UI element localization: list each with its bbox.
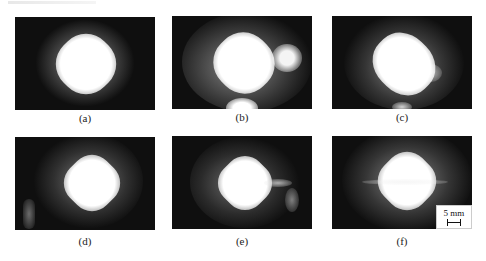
panel-a-caption: (a) [15,112,155,124]
panel-b-caption: (b) [172,111,312,123]
scale-bar-label: 5 mm [437,208,471,218]
panel-f-caption: (f) [332,235,472,247]
panel-a-image [15,17,155,110]
scale-bar-line [447,222,461,223]
panel-e-image [172,136,312,229]
panel-c-image [332,16,472,109]
panel-c-caption: (c) [332,111,472,123]
panel-d-caption: (d) [15,235,155,247]
scale-bar: 5 mm [436,205,472,229]
panel-d-image [15,137,155,230]
cropped-caption-fragment [8,1,96,4]
panel-e-caption: (e) [172,235,312,247]
panel-b-image [172,16,312,109]
panel-f-image: 5 mm [332,136,472,229]
